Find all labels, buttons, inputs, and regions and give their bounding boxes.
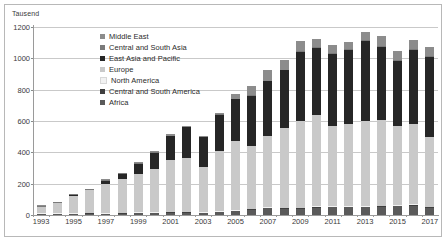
bar-segment	[215, 212, 224, 215]
bar-segment	[215, 151, 224, 211]
bar-segment	[296, 121, 305, 208]
bar-segment	[85, 214, 94, 215]
bar-segment	[263, 208, 272, 215]
legend-item-1[interactable]: Central and South Asia	[100, 42, 200, 53]
bar-segment	[377, 47, 386, 120]
x-tick-label: 2001	[162, 217, 179, 226]
x-axis-line	[33, 215, 439, 216]
x-tick-mark	[373, 215, 374, 217]
x-axis-tick-labels: 1993199519971999200120032005200720092011…	[33, 217, 438, 233]
bar-segment	[134, 164, 143, 174]
legend-item-5[interactable]: Central and South America	[100, 86, 200, 97]
bar-2011	[328, 45, 337, 215]
x-tick-mark	[244, 215, 245, 217]
legend-item-2[interactable]: East Asia and Pacific	[100, 53, 200, 64]
bar-segment	[101, 214, 110, 215]
bar-segment	[409, 206, 418, 215]
bar-1996	[85, 189, 94, 215]
bar-1993	[37, 205, 46, 215]
bar-segment	[296, 52, 305, 121]
x-tick-label: 1993	[33, 217, 50, 226]
x-tick-mark	[341, 215, 342, 217]
bar-segment	[393, 126, 402, 205]
bar-1995	[69, 194, 78, 215]
bar-segment	[53, 203, 62, 213]
bar-segment	[425, 47, 434, 57]
x-tick-mark	[325, 215, 326, 217]
bar-segment	[328, 54, 337, 126]
bar-segment	[166, 160, 175, 212]
bar-segment	[361, 207, 370, 215]
legend-swatch-icon	[100, 45, 105, 50]
bar-segment	[312, 208, 321, 215]
bar-segment	[69, 196, 78, 213]
legend-label: Europe	[109, 65, 134, 74]
y-tick-label: 400	[17, 148, 30, 157]
y-tick-label: 600	[17, 117, 30, 126]
bar-segment	[377, 120, 386, 205]
legend-swatch-icon	[100, 100, 105, 105]
legend-swatch-icon	[100, 77, 107, 84]
bar-segment	[393, 51, 402, 60]
x-tick-label: 2003	[195, 217, 212, 226]
bar-segment	[182, 127, 191, 158]
legend-label: North America	[111, 76, 159, 85]
bar-segment	[247, 146, 256, 209]
bar-segment	[263, 81, 272, 136]
bar-segment	[263, 70, 272, 80]
x-tick-label: 2007	[260, 217, 277, 226]
bar-segment	[199, 137, 208, 167]
x-tick-label: 2011	[325, 217, 341, 226]
x-tick-mark	[308, 215, 309, 217]
legend-swatch-icon	[100, 67, 105, 72]
x-tick-label: 2013	[357, 217, 374, 226]
legend-item-0[interactable]: Middle East	[100, 31, 200, 42]
bar-segment	[166, 136, 175, 160]
bar-segment	[85, 190, 94, 212]
bar-segment	[199, 213, 208, 215]
legend-item-3[interactable]: Europe	[100, 64, 200, 75]
bar-segment	[425, 57, 434, 137]
bar-segment	[280, 209, 289, 215]
bar-2012	[344, 42, 353, 215]
bar-1997	[101, 179, 110, 215]
bar-segment	[247, 96, 256, 146]
x-tick-mark	[227, 215, 228, 217]
x-tick-mark	[65, 215, 66, 217]
x-tick-label: 1997	[98, 217, 115, 226]
x-tick-label: 1999	[130, 217, 147, 226]
x-tick-mark	[114, 215, 115, 217]
bar-segment	[215, 115, 224, 152]
legend-swatch-icon	[100, 34, 105, 39]
bar-2000	[150, 151, 159, 215]
x-tick-mark	[82, 215, 83, 217]
bar-1994	[53, 202, 62, 215]
legend-label: East Asia and Pacific	[109, 54, 180, 63]
x-tick-mark	[130, 215, 131, 217]
y-tick-label: 800	[17, 85, 30, 94]
bar-segment	[312, 39, 321, 47]
x-tick-mark	[163, 215, 164, 217]
legend-label: Central and South Asia	[109, 43, 187, 52]
y-tick-label: 0	[26, 211, 30, 220]
x-tick-mark	[357, 215, 358, 217]
bar-segment	[393, 61, 402, 126]
bar-2001	[166, 134, 175, 215]
bar-segment	[182, 213, 191, 215]
chart-legend: Middle EastCentral and South AsiaEast As…	[100, 31, 200, 108]
bar-2013	[361, 32, 370, 215]
x-tick-mark	[98, 215, 99, 217]
bar-segment	[118, 179, 127, 212]
x-tick-mark	[422, 215, 423, 217]
x-tick-mark	[276, 215, 277, 217]
legend-item-4[interactable]: North America	[100, 75, 200, 86]
bar-segment	[134, 213, 143, 215]
chart-container: Tausend 020040060080010001200 1993199519…	[0, 0, 447, 250]
bar-segment	[425, 208, 434, 215]
legend-item-6[interactable]: Africa	[100, 97, 200, 108]
bar-2006	[247, 86, 256, 215]
x-tick-label: 1995	[65, 217, 82, 226]
x-tick-mark	[195, 215, 196, 217]
bar-segment	[409, 124, 418, 204]
bar-segment	[37, 214, 46, 215]
